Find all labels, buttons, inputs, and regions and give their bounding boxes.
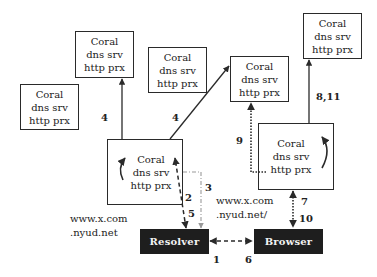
edge-label-4-left: 4	[101, 112, 108, 123]
node-line-http: http prx	[84, 61, 125, 74]
node-line-http: http prx	[239, 86, 280, 99]
node-title: Coral	[36, 88, 64, 101]
node-line-dns: dns srv	[86, 48, 123, 61]
node-title: Coral	[246, 60, 274, 73]
node-line-http: http prx	[131, 179, 172, 192]
node-title: Coral	[137, 153, 165, 166]
resolver-label: Resolver	[150, 236, 200, 247]
browser-box: Browser	[254, 229, 323, 254]
url-annotation-left: www.x.com .nyud.net	[70, 212, 128, 240]
node-line-http: http prx	[271, 163, 312, 176]
coral-node-middle: Coral dns srv http prx	[148, 47, 207, 93]
node-line-dns: dns srv	[273, 150, 310, 163]
node-title: Coral	[319, 17, 347, 30]
url-annotation-right: www.x.com .nyud.net/	[216, 194, 274, 222]
node-line-http: http prx	[312, 43, 353, 56]
node-title: Coral	[164, 51, 192, 64]
node-title: Coral	[277, 137, 305, 150]
edge-label-1: 1	[213, 254, 220, 265]
browser-label: Browser	[265, 236, 313, 247]
edge-label-4-mid: 4	[172, 112, 179, 123]
edge-label-5: 5	[188, 208, 195, 219]
node-line-dns: dns srv	[133, 166, 170, 179]
url-line: .nyud.net	[70, 226, 128, 240]
url-line: .nyud.net/	[216, 208, 274, 222]
resolver-box: Resolver	[140, 229, 209, 254]
node-title: Coral	[91, 35, 119, 48]
coral-node-center-right: Coral dns srv http prx	[230, 56, 289, 102]
edge-label-9: 9	[236, 135, 243, 146]
edge-label-8-11: 8,11	[316, 91, 340, 102]
node-line-http: http prx	[29, 114, 70, 127]
url-line: www.x.com	[216, 194, 274, 208]
node-line-dns: dns srv	[159, 64, 196, 77]
edge-label-7: 7	[301, 196, 308, 207]
coral-node-lower-left: Coral dns srv http prx	[107, 139, 183, 205]
coral-node-left: Coral dns srv http prx	[20, 84, 79, 130]
edge-label-6: 6	[245, 254, 252, 265]
node-line-dns: dns srv	[314, 30, 351, 43]
edge-label-2: 2	[185, 192, 192, 203]
coral-node-top-left: Coral dns srv http prx	[75, 31, 134, 78]
edge-label-3: 3	[205, 182, 212, 193]
coral-node-top-right: Coral dns srv http prx	[303, 13, 362, 59]
coral-node-lower-right: Coral dns srv http prx	[258, 123, 334, 190]
edge-label-10: 10	[299, 213, 313, 224]
url-line: www.x.com	[70, 212, 128, 226]
node-line-http: http prx	[157, 77, 198, 90]
node-line-dns: dns srv	[241, 73, 278, 86]
coral-cdn-diagram: Coral dns srv http prx Coral dns srv htt…	[0, 0, 377, 277]
node-line-dns: dns srv	[31, 101, 68, 114]
